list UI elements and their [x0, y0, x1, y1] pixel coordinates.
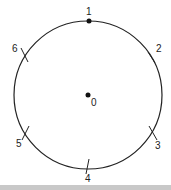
point-1-label: 1 — [86, 6, 92, 17]
point-3-tick — [149, 126, 157, 140]
point-5-label: 5 — [16, 138, 22, 149]
point-4-label: 4 — [85, 173, 91, 184]
point-6-label: 6 — [12, 43, 18, 54]
circle-diagram: 0 1 2 3 4 5 6 — [0, 0, 171, 190]
center-label: 0 — [91, 97, 97, 108]
point-3-label: 3 — [155, 140, 161, 151]
point-2-label: 2 — [156, 43, 162, 54]
footer-band — [0, 185, 171, 190]
point-6-tick — [21, 48, 28, 62]
center-dot — [86, 93, 91, 98]
point-2-tick — [148, 52, 155, 63]
point-1-dot — [87, 19, 92, 24]
point-4-tick — [86, 159, 89, 174]
